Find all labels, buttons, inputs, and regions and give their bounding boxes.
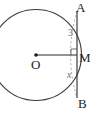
geometry-figure: A B M O 3 x	[0, 0, 105, 113]
label-point-o: O	[31, 58, 40, 71]
label-point-m: M	[79, 51, 91, 64]
label-point-a: A	[76, 1, 85, 14]
label-point-b: B	[78, 97, 87, 110]
label-segment-lower-length: x	[67, 70, 71, 80]
right-angle-mark	[71, 49, 77, 55]
label-segment-upper-length: 3	[68, 28, 73, 38]
